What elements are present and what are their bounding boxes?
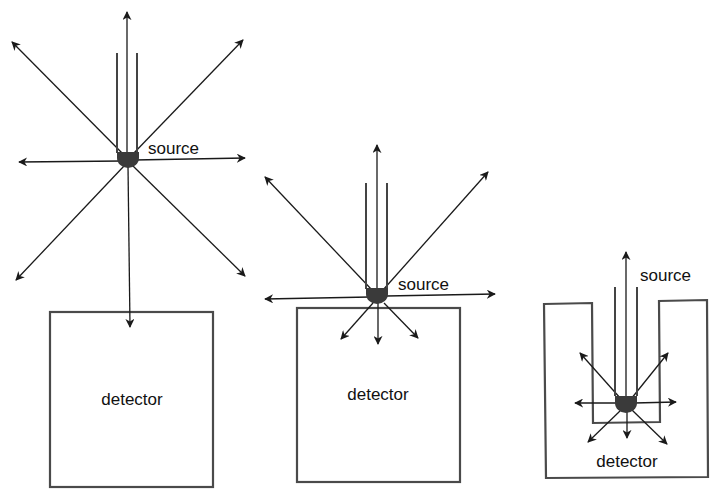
ray-up-right-arrow-icon <box>132 40 243 155</box>
ray-down-arrow-icon <box>128 166 130 327</box>
ray-up-left-arrow-icon <box>265 177 372 290</box>
diagram-canvas: detector source detector <box>0 0 719 492</box>
panel-far-geometry: detector source <box>12 12 245 487</box>
ray-up-left-arrow-icon <box>12 42 124 155</box>
source-label: source <box>640 266 691 285</box>
panel-well-geometry: detector source <box>544 252 708 478</box>
ray-down-right-arrow-icon <box>133 166 245 276</box>
ray-up-right-arrow-icon <box>383 172 488 290</box>
source-dot-icon <box>117 152 139 168</box>
detector-label: detector <box>347 385 409 404</box>
ray-right-arrow-icon <box>386 294 495 296</box>
source-label: source <box>148 139 199 158</box>
ray-down-left-arrow-icon <box>16 166 124 280</box>
ray-right-arrow-icon <box>134 158 245 160</box>
detector-label: detector <box>596 452 658 471</box>
ray-left-arrow-icon <box>19 161 122 162</box>
detector-label: detector <box>101 390 163 409</box>
ray-left-arrow-icon <box>265 297 370 299</box>
source-label: source <box>398 275 449 294</box>
source-dot-icon <box>615 396 637 413</box>
radiation-rays <box>12 12 245 327</box>
source-dot-icon <box>366 288 388 304</box>
panel-near-geometry: detector source <box>265 145 495 482</box>
